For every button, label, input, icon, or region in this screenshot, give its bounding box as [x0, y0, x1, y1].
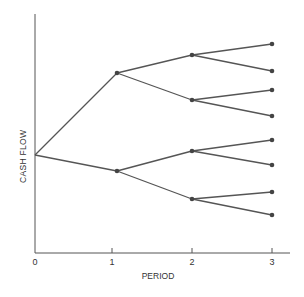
tree-node [190, 149, 195, 154]
tree-node [190, 53, 195, 58]
tree-edge [192, 44, 272, 55]
tree-node [270, 114, 275, 119]
tree-node [270, 163, 275, 168]
tree-edge [117, 73, 192, 100]
tree-edge [192, 140, 272, 151]
tree-edge [117, 151, 192, 171]
tree-node [270, 69, 275, 74]
x-tick-label-3: 3 [269, 257, 274, 267]
tree-edge [35, 155, 117, 171]
cash-flow-tree-diagram [0, 0, 304, 297]
x-tick-label-1: 1 [109, 257, 114, 267]
tree-node [270, 190, 275, 195]
tree-edge [192, 100, 272, 116]
x-tick-label-2: 2 [189, 257, 194, 267]
tree-edge [192, 55, 272, 71]
tree-edge [192, 192, 272, 199]
tree-node [270, 42, 275, 47]
tree-edge [117, 171, 192, 199]
x-tick-label-0: 0 [32, 257, 37, 267]
tree-edge [192, 151, 272, 165]
tree-edge [117, 55, 192, 73]
y-axis-label: CASH FLOW [18, 130, 28, 183]
tree-edges [35, 44, 272, 215]
tree-node [115, 71, 120, 76]
tree-node [190, 98, 195, 103]
tree-node [115, 169, 120, 174]
tree-node [270, 88, 275, 93]
tree-node [270, 138, 275, 143]
tree-edge [35, 73, 117, 155]
x-axis-label: PERIOD [142, 271, 175, 281]
tree-edge [192, 90, 272, 100]
tree-node [190, 197, 195, 202]
tree-edge [192, 199, 272, 215]
tree-node [270, 213, 275, 218]
